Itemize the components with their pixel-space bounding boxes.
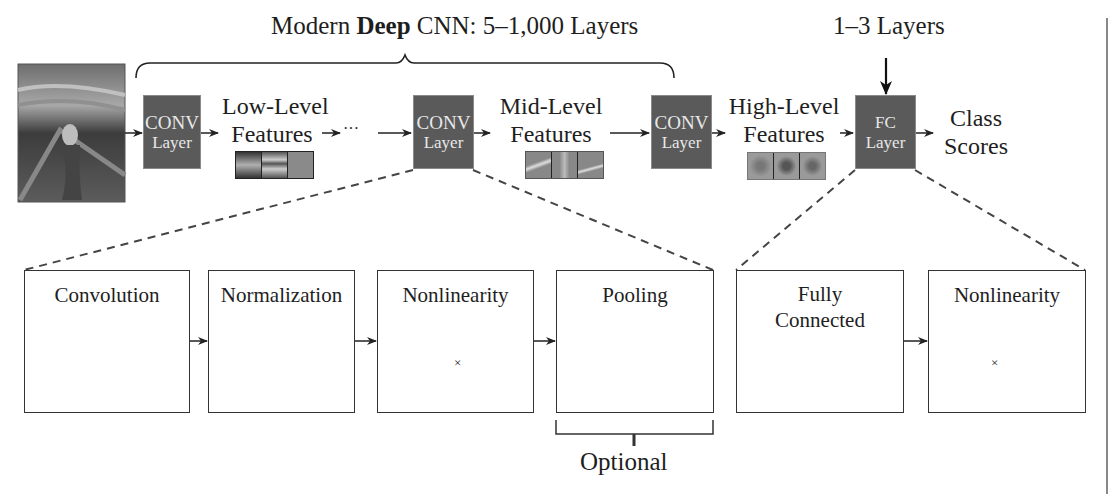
mid-level-features-label: Mid-Level Features — [492, 92, 610, 148]
title-suffix: CNN: 5–1,000 Layers — [411, 12, 639, 39]
fully-connected-stage-title: Fully Connected — [737, 281, 903, 333]
feature-thumbnail — [748, 153, 774, 179]
title-prefix: Modern — [271, 12, 356, 39]
mid-level-feature-thumbnails — [525, 151, 604, 179]
high-level-feature-thumbnails — [747, 152, 826, 180]
conv-layer-1-label: CONV — [144, 112, 200, 133]
feature-thumbnail — [578, 152, 603, 178]
pooling-stage-box: Pooling — [556, 270, 714, 413]
ellipsis: ··· — [343, 120, 359, 138]
nonlinearity-stage-box: Nonlinearity × — [377, 270, 534, 413]
output-label-line1: Class — [936, 104, 1016, 132]
convolution-stage-box: Convolution — [24, 270, 190, 413]
normalization-stage-title: Normalization — [209, 283, 354, 307]
low-level-feature-thumbnails — [235, 151, 314, 179]
scream-painting-image — [18, 64, 125, 202]
pooling-stage-title: Pooling — [557, 283, 713, 307]
conv-layer-3-sublabel: Layer — [652, 133, 711, 153]
conv-layer-2-sublabel: Layer — [414, 133, 473, 153]
title-bold: Deep — [356, 12, 410, 39]
conv-layer-2-label: CONV — [414, 112, 473, 133]
high-level-features-label: High-Level Features — [727, 92, 841, 148]
deep-cnn-brace — [136, 55, 674, 78]
feature-thumbnail — [262, 152, 288, 178]
feature-thumbnail — [288, 152, 313, 178]
conv-layer-3: CONV Layer — [651, 95, 712, 169]
class-scores-label: Class Scores — [936, 104, 1016, 160]
fc-layer: FC Layer — [855, 95, 916, 169]
fc-layer-label: FC — [856, 112, 915, 133]
feature-thumbnail — [236, 152, 262, 178]
low-level-features-label: Low-Level Features — [222, 92, 322, 148]
feature-thumbnail — [774, 153, 800, 179]
conv-layer-3-label: CONV — [652, 112, 711, 133]
optional-bracket — [556, 420, 713, 446]
fc-layer-sublabel: Layer — [856, 133, 915, 153]
feature-label-line1: High-Level — [727, 92, 841, 120]
output-label-line2: Scores — [936, 132, 1016, 160]
feature-label-line2: Features — [727, 120, 841, 148]
fc-nonlinearity-stage-title: Nonlinearity — [929, 283, 1085, 307]
feature-thumbnail — [552, 152, 578, 178]
normalization-stage-box: Normalization — [208, 270, 355, 413]
deep-cnn-title: Modern Deep CNN: 5–1,000 Layers — [271, 12, 638, 40]
feature-thumbnail — [526, 152, 552, 178]
feature-thumbnail — [800, 153, 825, 179]
conv-layer-2: CONV Layer — [413, 95, 474, 169]
fully-connected-stage-box: Fully Connected — [736, 270, 904, 413]
optional-label: Optional — [580, 448, 668, 476]
diagram-graphics — [0, 0, 1113, 494]
fc-title-line2: Connected — [737, 307, 903, 333]
feature-label-line1: Low-Level — [222, 92, 322, 120]
feature-label-line1: Mid-Level — [492, 92, 610, 120]
nonlinearity-stage-title: Nonlinearity — [378, 283, 533, 307]
fc-title-line1: Fully — [737, 281, 903, 307]
feature-label-line2: Features — [222, 120, 322, 148]
fc-nonlinearity-stage-box: Nonlinearity × — [928, 270, 1086, 413]
conv-layer-1: CONV Layer — [143, 95, 201, 169]
feature-label-line2: Features — [492, 120, 610, 148]
fc-layers-note: 1–3 Layers — [833, 12, 945, 40]
multiply-icon: × — [991, 355, 998, 371]
multiply-icon: × — [454, 355, 461, 371]
conv-layer-1-sublabel: Layer — [144, 133, 200, 153]
convolution-stage-title: Convolution — [25, 283, 189, 307]
